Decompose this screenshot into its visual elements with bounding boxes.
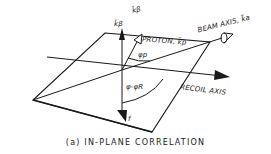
k-beta-upper-label: k̄β [131, 5, 141, 14]
beam-cone-icon [224, 33, 233, 43]
plane-front-edge [33, 100, 152, 132]
figure-caption: (a) IN-PLANE CORRELATION [0, 138, 271, 147]
phi-minus-phi-r-label: φ-φR [126, 83, 143, 91]
k-beta-label: k̄β [114, 20, 123, 28]
f-label: f [128, 115, 131, 123]
incoming-line [33, 70, 122, 100]
f-arrowhead-icon [117, 110, 127, 122]
phi-p-label: φp [138, 51, 147, 59]
in-plane-correlation-diagram: k̄β k̄β PROTON, k̄p φp BEAM AXIS, k̄a φ-… [0, 0, 271, 154]
recoil-arrowhead-icon [214, 70, 230, 80]
